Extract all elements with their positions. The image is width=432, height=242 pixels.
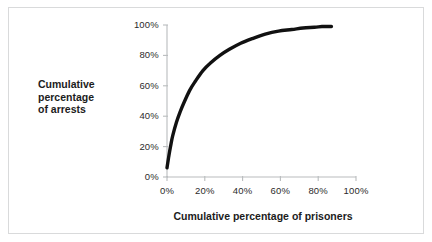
y-axis-title-line-1: Cumulative	[38, 78, 136, 91]
y-axis-tick-label: 80%	[129, 49, 159, 60]
y-axis-title-line-3: of arrests	[38, 103, 136, 116]
plot-area	[0, 0, 432, 242]
x-axis-tick-label: 100%	[336, 185, 376, 196]
y-axis-title: Cumulative percentage of arrests	[38, 78, 136, 116]
axes	[167, 25, 356, 177]
y-axis-tick-label: 0%	[129, 171, 159, 182]
y-axis-tick-label: 20%	[129, 141, 159, 152]
x-axis-title: Cumulative percentage of prisoners	[118, 210, 408, 222]
y-axis-tick-label: 100%	[129, 19, 159, 30]
x-axis-tick-label: 60%	[260, 185, 300, 196]
data-series-line	[167, 26, 331, 167]
x-axis-tick-label: 40%	[223, 185, 263, 196]
y-axis-title-line-2: percentage	[38, 91, 136, 104]
x-axis-tick-label: 0%	[147, 185, 187, 196]
x-axis-tick-label: 20%	[185, 185, 225, 196]
x-axis-tick-label: 80%	[298, 185, 338, 196]
chart-figure: 0%20%40%60%80%100% 0%20%40%60%80%100% Cu…	[0, 0, 432, 242]
